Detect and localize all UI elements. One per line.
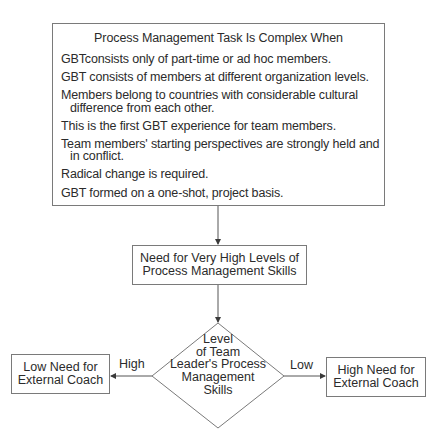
skills-need-line: Process Management Skills [133, 265, 306, 278]
decision-line: Level [160, 333, 276, 346]
condition-item: GBTconsists only of part-time or ad hoc … [61, 53, 388, 66]
high-need-coach-text: High Need for External Coach [327, 364, 425, 390]
complexity-conditions-box: Process Management Task Is Complex When … [52, 23, 385, 206]
conditions-title: Process Management Task Is Complex When [53, 31, 384, 45]
condition-item: GBT formed on a one-shot, project basis. [61, 187, 388, 200]
decision-line: Skills [160, 384, 276, 397]
condition-item: Members belong to countries with conside… [61, 89, 388, 114]
low-need-coach-box: Low Need for External Coach [11, 354, 110, 394]
condition-item: Radical change is required. [61, 168, 388, 181]
branch-label-high: High [119, 357, 145, 371]
high-need-coach-box: High Need for External Coach [326, 357, 426, 397]
decision-label: Level of Team Leader's Process Managemen… [160, 333, 276, 397]
conditions-list: GBTconsists only of part-time or ad hoc … [61, 53, 388, 205]
condition-item: This is the first GBT experience for tea… [61, 120, 388, 133]
low-need-line: External Coach [12, 374, 109, 387]
high-need-line: External Coach [327, 377, 425, 390]
decision-line: Management [160, 371, 276, 384]
condition-item: Team members' starting perspectives are … [61, 138, 388, 163]
skills-need-box: Need for Very High Levels of Process Man… [132, 245, 307, 285]
low-need-coach-text: Low Need for External Coach [12, 361, 109, 387]
branch-label-low: Low [290, 358, 313, 372]
condition-item: GBT consists of members at different org… [61, 71, 388, 84]
skills-need-text: Need for Very High Levels of Process Man… [133, 252, 306, 278]
